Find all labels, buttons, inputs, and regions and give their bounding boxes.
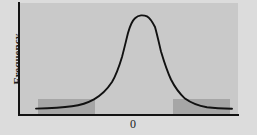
distribution-plot-svg [19,3,238,115]
y-axis-line [18,2,20,116]
x-axis-line [18,114,239,116]
frequency-distribution-figure: Frequency 0 [0,0,257,135]
bell-curve-line [36,15,232,108]
plot-area [19,3,238,115]
x-axis-tick-label-zero: 0 [121,117,145,132]
